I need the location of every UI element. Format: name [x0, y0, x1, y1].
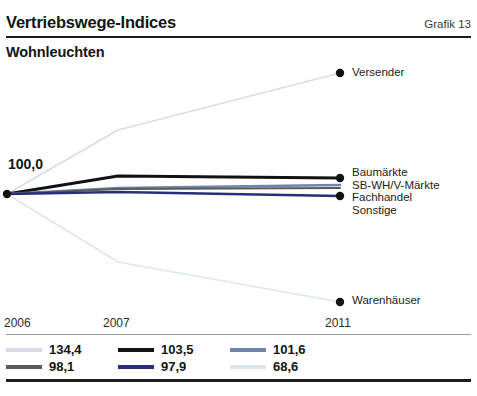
footer-divider — [6, 379, 471, 382]
series-endpoint-sonstige — [336, 192, 344, 200]
legend-value: 68,6 — [273, 359, 298, 374]
chart-subtitle: Wohnleuchten — [6, 44, 104, 60]
series-line-baum-rkte — [7, 176, 340, 194]
legend-item: 101,6 — [230, 342, 342, 357]
series-label-baumaerkte: Baumärkte — [352, 166, 440, 179]
series-label-group: Baumärkte SB-WH/V-Märkte Fachhandel Sons… — [352, 166, 440, 216]
legend-swatch — [118, 365, 154, 369]
base-index-label: 100,0 — [8, 156, 43, 172]
legend-swatch — [230, 365, 266, 369]
x-tick-2006: 2006 — [4, 316, 31, 330]
legend-swatch — [6, 348, 42, 352]
series-label-sb-wh-v-maerkte: SB-WH/V-Märkte — [352, 179, 440, 192]
legend-value: 98,1 — [49, 359, 74, 374]
legend-value: 101,6 — [273, 342, 306, 357]
page-title: Vertriebswege-Indices — [6, 13, 176, 32]
x-tick-2007: 2007 — [103, 316, 130, 330]
legend-value: 134,4 — [49, 342, 82, 357]
origin-dot — [3, 190, 11, 198]
legend-item: 134,4 — [6, 342, 118, 357]
series-line-fachhandel — [7, 188, 340, 194]
chart-legend: 134,4103,5101,698,197,968,6 — [6, 341, 336, 375]
x-axis-line — [6, 334, 471, 335]
series-line-sonstige — [7, 192, 340, 196]
series-line-sb-wh-v-m-rkte — [7, 185, 340, 194]
series-line-versender — [7, 73, 340, 194]
series-label-sonstige: Sonstige — [352, 204, 440, 217]
figure-number: Grafik 13 — [424, 18, 471, 30]
series-label-versender: Versender — [352, 66, 404, 79]
legend-swatch — [6, 365, 42, 369]
header: Vertriebswege-Indices Grafik 13 — [6, 13, 471, 32]
header-divider — [6, 36, 471, 38]
legend-swatch — [118, 348, 154, 352]
series-label-warenhaeuser: Warenhäuser — [352, 294, 421, 307]
legend-item: 68,6 — [230, 359, 342, 374]
series-endpoint-warenh-user — [336, 298, 344, 306]
series-label-fachhandel: Fachhandel — [352, 191, 440, 204]
series-endpoint-versender — [336, 69, 344, 77]
legend-swatch — [230, 348, 266, 352]
legend-value: 103,5 — [161, 342, 194, 357]
legend-item: 98,1 — [6, 359, 118, 374]
legend-value: 97,9 — [161, 359, 186, 374]
legend-item: 103,5 — [118, 342, 230, 357]
series-line-warenh-user — [7, 194, 340, 302]
legend-item: 97,9 — [118, 359, 230, 374]
series-endpoint-baum-rkte — [336, 174, 344, 182]
x-tick-2011: 2011 — [325, 316, 351, 330]
